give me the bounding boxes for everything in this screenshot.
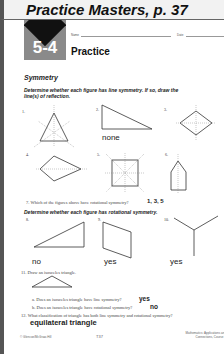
answer-question-7: 1, 3, 5 [147, 198, 164, 204]
page-banner: Practice Masters, p. 37 [0, 0, 224, 20]
question-11a: a. Does an isosceles triangle have line … [32, 297, 121, 302]
figure-label: 2. [96, 107, 99, 112]
section-title: Symmetry [24, 74, 58, 81]
answer-question-12: equilateral triangle [30, 318, 97, 327]
question-7: 7. Which of the figures above have rotat… [26, 200, 129, 205]
answer-figure-2: none [102, 133, 120, 142]
answer-question-11a: yes [139, 295, 150, 302]
figure-label: 4. [26, 152, 29, 157]
square-figure [104, 152, 146, 194]
answer-figure-10: yes [170, 257, 182, 266]
isosceles-triangle-figure [32, 275, 74, 289]
answer-question-11b: no [150, 303, 158, 310]
kite-figure [36, 153, 91, 185]
instruction-line-symmetry: Determine whether each figure has line s… [24, 87, 194, 99]
lesson-badge: 5-4 [24, 20, 66, 60]
date-label: Date [177, 33, 183, 37]
footer-page-number: T37 [96, 334, 103, 339]
name-field [81, 36, 171, 37]
pentagon-figure [168, 152, 190, 194]
three-spoke-figure [172, 216, 220, 256]
footer-copyright: © Glencoe/McGraw-Hill [20, 335, 51, 339]
banner-title: Practice Masters, p. 37 [26, 1, 188, 18]
answer-figure-9: yes [104, 257, 116, 266]
figure-label: 3. [164, 107, 167, 112]
figure-label: 8. [26, 217, 29, 222]
right-triangle-figure [102, 105, 154, 135]
rhombus-figure [174, 103, 219, 143]
worksheet-page: 5-4 Name Date Practice Symmetry Determin… [0, 20, 224, 354]
instruction-rotational-symmetry: Determine whether each figure has rotati… [24, 209, 157, 215]
name-label: Name [71, 33, 79, 37]
answer-figure-8: no [32, 257, 41, 266]
figure-label: 1. [22, 109, 25, 114]
question-11b: b. Does an isosceles triangle have rotat… [32, 305, 132, 310]
lesson-number: 5-4 [24, 38, 66, 58]
figure-label: 5. [97, 152, 100, 157]
scalene-triangle-figure [32, 220, 87, 250]
page-heading: Practice [71, 46, 110, 57]
parallelogram-figure [101, 220, 133, 260]
equilateral-triangle-figure [32, 103, 77, 148]
footer-book-title: Mathematics: Applications and Connection… [172, 332, 224, 339]
figure-label: 10. [164, 217, 169, 222]
date-field [186, 36, 224, 37]
